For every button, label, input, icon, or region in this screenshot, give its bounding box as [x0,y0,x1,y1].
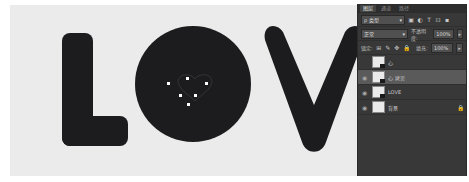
layer-name: 心 拷贝 [388,74,464,81]
layer-thumbnail [372,86,385,98]
path-anchor-point[interactable] [205,82,208,85]
blend-mode-value: 正常 [364,30,374,38]
tab-layers[interactable]: 图层 [360,5,376,12]
lock-image-icon[interactable]: ✎ [385,45,391,51]
opacity-label: 不透明度: [411,27,430,41]
layer-thumbnail [372,56,385,68]
adjustment-filter-icon[interactable]: ◐ [417,17,423,23]
layer-thumbnail [372,71,385,83]
layer-row-background[interactable]: ◉ 背景 🔒 [358,100,466,115]
eye-icon[interactable]: ◉ [360,103,369,112]
document-canvas[interactable] [10,5,357,176]
tab-paths[interactable]: 路径 [396,5,412,12]
path-anchor-point[interactable] [187,103,190,106]
blend-mode-select[interactable]: 正常 ▾ [361,29,408,39]
layer-filter-select[interactable]: ρ 类型 ▾ [361,15,405,25]
path-anchor-point[interactable] [186,77,189,80]
blend-row: 正常 ▾ 不透明度: 100% ▸ [358,27,466,41]
eye-icon[interactable]: ◉ [360,73,369,82]
opacity-input[interactable]: 100% [433,29,453,39]
smart-object-filter-icon[interactable]: ▪ [444,17,450,23]
layer-name: LOVE [388,89,464,95]
panel-tabs: 图层 通道 路径 [358,4,466,13]
filter-label: ρ 类型 [364,16,379,24]
lock-transparent-icon[interactable]: ⊞ [376,45,382,51]
shape-filter-icon[interactable]: ⊡ [435,17,441,23]
layer-row-love[interactable]: ◉ LOVE [358,85,466,100]
fill-slider-toggle[interactable]: ▸ [456,43,463,53]
lock-all-icon[interactable]: 🔒 [403,45,409,51]
chevron-down-icon: ▾ [402,30,405,38]
chevron-down-icon: ▾ [399,16,402,24]
layers-panel: 图层 通道 路径 ρ 类型 ▾ ▣ ◐ T ⊡ ▪ 正常 ▾ 不透明度: 100… [357,4,467,176]
fill-label: 填充: [416,44,428,51]
path-anchor-point[interactable] [194,94,197,97]
opacity-slider-toggle[interactable]: ▸ [457,29,463,39]
layer-name: 心 [388,59,464,66]
lock-icon: 🔒 [456,104,464,111]
layer-thumbnail [372,101,385,113]
image-filter-icon[interactable]: ▣ [408,17,414,23]
layers-list: 心 ◉ 心 拷贝 ◉ LOVE ◉ 背景 🔒 [358,55,466,115]
visibility-toggle[interactable] [360,58,369,67]
eye-icon[interactable]: ◉ [360,88,369,97]
lock-row: 锁定: ⊞ ✎ ✥ 🔒 填充: 100% ▸ [358,41,466,55]
type-filter-icon[interactable]: T [426,17,432,23]
tab-channels[interactable]: 通道 [378,5,394,12]
fill-input[interactable]: 100% [431,43,453,53]
path-anchor-point[interactable] [167,82,170,85]
lock-position-icon[interactable]: ✥ [394,45,400,51]
filter-row: ρ 类型 ▾ ▣ ◐ T ⊡ ▪ [358,13,466,27]
path-anchor-point[interactable] [179,94,182,97]
layer-name: 背景 [388,104,453,111]
lock-label: 锁定: [361,44,373,51]
layer-row-heart-copy[interactable]: ◉ 心 拷贝 [358,70,466,85]
layer-row-heart[interactable]: 心 [358,55,466,70]
